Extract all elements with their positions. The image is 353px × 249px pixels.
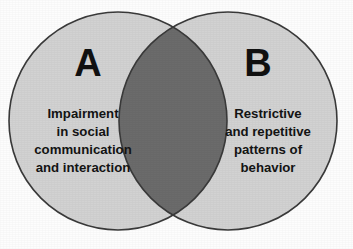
set-a-desc-line-4: and interaction bbox=[36, 160, 131, 175]
set-a-desc-line-3: communication bbox=[34, 142, 131, 157]
set-b-letter: B bbox=[244, 42, 271, 84]
set-b-desc-line-4: behavior bbox=[241, 160, 296, 175]
set-b-desc-line-1: Restrictive bbox=[234, 106, 301, 121]
venn-diagram-figure: A B Impairment in social communication a… bbox=[0, 0, 353, 249]
venn-diagram-canvas: A B Impairment in social communication a… bbox=[0, 0, 353, 249]
set-b-desc-line-2: and repetitive bbox=[225, 124, 311, 139]
set-a-desc-line-2: in social bbox=[57, 124, 110, 139]
set-a-desc-line-1: Impairment bbox=[47, 106, 119, 121]
set-b-desc-line-3: patterns of bbox=[234, 142, 303, 157]
set-a-letter: A bbox=[74, 42, 101, 84]
